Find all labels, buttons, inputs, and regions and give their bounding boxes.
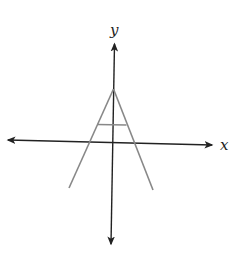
figure-left-leg — [69, 89, 114, 188]
coordinate-diagram: y x — [0, 0, 238, 255]
x-axis — [8, 140, 212, 145]
y-axis-label: y — [109, 21, 119, 39]
y-axis — [111, 44, 115, 244]
figure-right-leg — [114, 89, 154, 190]
figure-crossbar — [97, 125, 127, 126]
x-axis-label: x — [220, 136, 229, 154]
